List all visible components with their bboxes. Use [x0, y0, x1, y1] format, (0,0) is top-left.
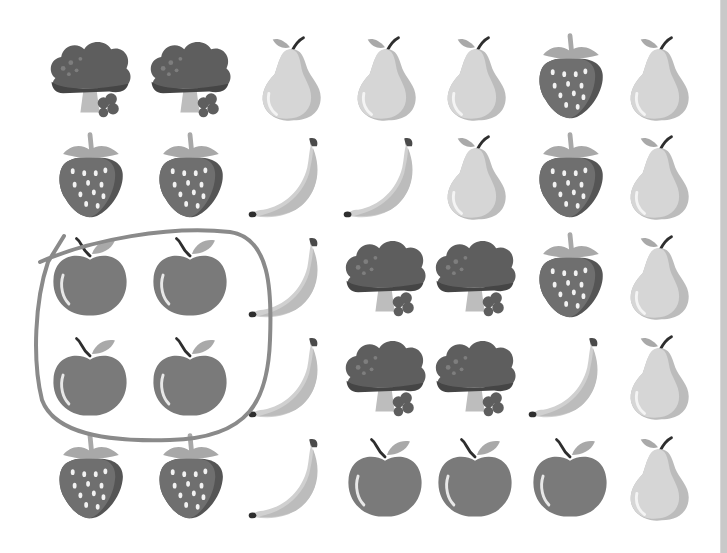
apple-icon: [427, 430, 523, 526]
banana-icon: [242, 229, 338, 325]
strawberry-icon: [42, 430, 138, 526]
banana-icon: [337, 129, 433, 225]
broccoli-icon: [142, 30, 238, 126]
pear-icon: [337, 30, 433, 126]
strawberry-icon: [142, 129, 238, 225]
pear-icon: [427, 30, 523, 126]
pear-icon: [610, 229, 706, 325]
pear-icon: [610, 329, 706, 425]
pear-icon: [427, 129, 523, 225]
apple-icon: [337, 430, 433, 526]
pear-icon: [610, 30, 706, 126]
apple-icon: [522, 430, 618, 526]
apple-icon: [42, 329, 138, 425]
pear-icon: [610, 430, 706, 526]
broccoli-icon: [42, 30, 138, 126]
apple-icon: [142, 229, 238, 325]
strawberry-icon: [522, 229, 618, 325]
banana-icon: [522, 329, 618, 425]
strawberry-icon: [42, 129, 138, 225]
banana-icon: [242, 129, 338, 225]
apple-icon: [142, 329, 238, 425]
apple-icon: [42, 229, 138, 325]
strawberry-icon: [522, 129, 618, 225]
broccoli-icon: [427, 229, 523, 325]
banana-icon: [242, 329, 338, 425]
broccoli-icon: [427, 329, 523, 425]
broccoli-icon: [337, 229, 433, 325]
banana-icon: [242, 430, 338, 526]
pear-icon: [610, 129, 706, 225]
right-edge-bar: [720, 0, 727, 553]
strawberry-icon: [142, 430, 238, 526]
pear-icon: [242, 30, 338, 126]
strawberry-icon: [522, 30, 618, 126]
broccoli-icon: [337, 329, 433, 425]
